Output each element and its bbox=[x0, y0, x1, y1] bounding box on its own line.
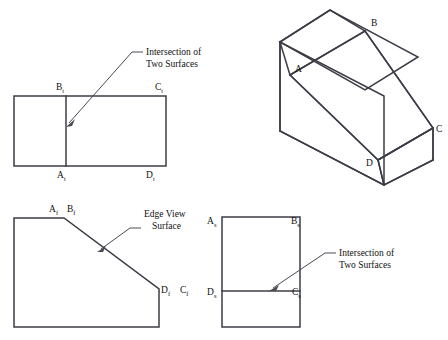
iso-edge-bottom-right bbox=[384, 160, 433, 185]
top-view-label-c: Ct bbox=[155, 82, 163, 94]
iso-label-a: A bbox=[295, 64, 302, 74]
side-view-leader-diagonal bbox=[273, 253, 325, 288]
side-view-leader-arrowhead bbox=[269, 285, 279, 291]
front-view-note-line1: Edge View bbox=[144, 209, 186, 219]
side-view-label-a: As bbox=[207, 216, 217, 228]
iso-edge-top-back bbox=[280, 10, 365, 42]
front-view-label-d: Df bbox=[161, 285, 171, 297]
iso-edge-ramp-front bbox=[290, 75, 378, 160]
iso-edge-right-slope bbox=[365, 31, 433, 128]
top-view-label-a: At bbox=[57, 170, 66, 182]
iso-right-face bbox=[378, 128, 433, 185]
front-view-label-c: Cf bbox=[180, 285, 189, 297]
front-view-label-a: Af bbox=[49, 204, 59, 216]
front-view-leader bbox=[97, 228, 141, 252]
top-view: Bt Ct At Dt Intersection of Two Surfaces bbox=[14, 47, 202, 182]
iso-label-b: B bbox=[371, 18, 377, 28]
side-view: As Bs Ds Cs Intersection of Two Surfaces bbox=[207, 216, 395, 327]
top-view-leader-arrowhead bbox=[66, 119, 75, 127]
side-view-outline bbox=[222, 217, 300, 327]
top-view-label-d: Dt bbox=[146, 170, 155, 182]
iso-label-d: D bbox=[366, 158, 373, 168]
front-view-leader-diagonal bbox=[101, 228, 130, 249]
top-view-note-line2: Two Surfaces bbox=[146, 59, 198, 69]
top-view-outline bbox=[14, 96, 166, 166]
technical-drawing-canvas: Bt Ct At Dt Intersection of Two Surfaces… bbox=[0, 0, 448, 340]
side-view-label-d: Ds bbox=[207, 287, 217, 299]
isometric-pictorial-view: A B C D bbox=[280, 10, 442, 185]
side-view-leader bbox=[269, 253, 336, 291]
front-view: Af Bf Df Cf Edge View Surface bbox=[14, 204, 189, 327]
iso-edge-ramp-bottom bbox=[378, 128, 433, 160]
iso-edge-d-vertical bbox=[378, 160, 384, 185]
top-view-note-line1: Intersection of bbox=[146, 47, 202, 57]
top-view-label-b: Bt bbox=[56, 82, 64, 94]
front-view-note-line2: Surface bbox=[152, 221, 181, 231]
top-view-leader bbox=[66, 52, 143, 127]
top-view-leader-diagonal bbox=[69, 52, 132, 123]
front-view-label-b: Bf bbox=[67, 204, 76, 216]
side-view-note-line1: Intersection of bbox=[339, 248, 395, 258]
side-view-note-line2: Two Surfaces bbox=[339, 260, 391, 270]
iso-label-c: C bbox=[436, 124, 442, 134]
front-view-outline bbox=[14, 218, 159, 327]
